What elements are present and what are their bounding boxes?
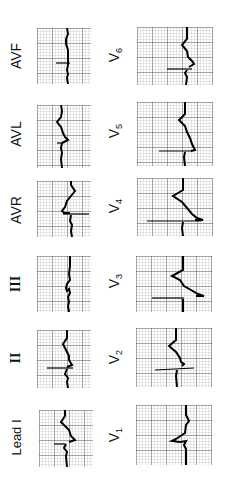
lead-label-avr: AVR [8, 190, 24, 230]
ecg-panel-i [39, 410, 93, 467]
lead-label-avf: AVF [8, 36, 24, 76]
lead-label-v2: V2 [106, 342, 124, 372]
ecg-panel-v4 [137, 178, 213, 236]
lead-label-v5: V5 [106, 116, 124, 146]
ecg-panel-iii [37, 256, 91, 312]
ecg-panel-avl [37, 105, 91, 168]
lead-label-v6: V6 [106, 40, 124, 70]
lead-label-iii: III [8, 264, 24, 304]
lead-label-v4: V4 [106, 191, 124, 221]
ecg-panel-avf [37, 28, 91, 84]
ecg-panel-v3 [136, 256, 212, 312]
ecg-panel-v6 [137, 27, 213, 85]
ecg-panel-v5 [137, 102, 213, 166]
lead-label-i: Lead I [9, 410, 24, 466]
lead-label-ii: II [8, 338, 24, 378]
ecg-panel-avr [37, 181, 91, 237]
lead-label-v1: V1 [106, 420, 124, 450]
lead-label-v3: V3 [106, 266, 124, 296]
ecg-panel-v2 [136, 328, 212, 387]
lead-label-avl: AVL [8, 114, 24, 154]
ecg-panel-v1 [136, 405, 212, 465]
ecg-panel-ii [37, 330, 91, 388]
